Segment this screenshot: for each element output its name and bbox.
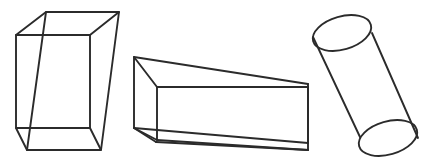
figure-background (0, 0, 432, 161)
solids-canvas (0, 0, 432, 161)
geometric-solids-figure (0, 0, 432, 161)
